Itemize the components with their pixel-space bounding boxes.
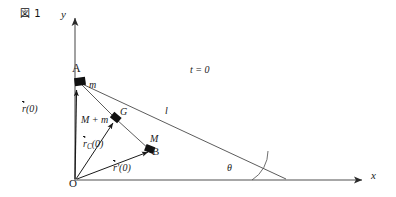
time-annotation: t = 0 [190,65,210,75]
vector-r0-arg: (0) [26,103,38,114]
rod-line-l [80,83,286,179]
axis-label-y: y [61,9,66,20]
mass-label-b: M [150,134,158,144]
figure-drawing [0,0,396,197]
vector-rc0-arrow [76,123,113,179]
vector-label-rc0: rC(0) [83,139,103,151]
vector-overbar-rp0 [113,160,115,161]
figure-canvas: 図 1 y x O A m G M + m M B t = 0 l θ r(0)… [0,0,396,197]
angle-label-theta: θ [227,163,232,173]
mass-label-a: m [89,80,96,90]
point-label-a: A [72,62,81,74]
origin-label: O [69,178,77,189]
vector-rp0-head: r [113,162,117,173]
axis-label-x: x [371,170,376,181]
vector-label-rp0: r′(0) [113,163,131,173]
vector-rc0-arg: (0) [92,138,104,149]
vector-rc0-head: r [83,138,87,149]
mass-label-g: M + m [81,115,108,125]
point-label-g: G [120,107,127,117]
mass-block-a [74,77,86,86]
point-label-b: B [152,146,159,157]
figure-tag: 図 1 [20,9,41,19]
rod-length-label: l [165,106,168,116]
vector-r0-head: r [22,103,26,114]
vector-label-r0: r(0) [22,104,38,114]
vector-rp0-arg: (0) [119,162,131,173]
angle-arc-theta [252,151,268,180]
vector-overbar-r0 [22,101,24,102]
vector-overbar-rc0 [83,136,85,137]
